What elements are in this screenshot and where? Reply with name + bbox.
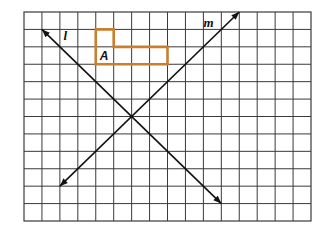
labels: A l m — [63, 15, 213, 63]
coordinate-grid — [24, 12, 311, 221]
shape-a-label: A — [99, 49, 109, 63]
reflection-lines — [42, 12, 239, 204]
reflection-diagram: A l m — [0, 0, 326, 230]
line-m-label: m — [203, 15, 213, 30]
line-l-label: l — [63, 28, 67, 43]
